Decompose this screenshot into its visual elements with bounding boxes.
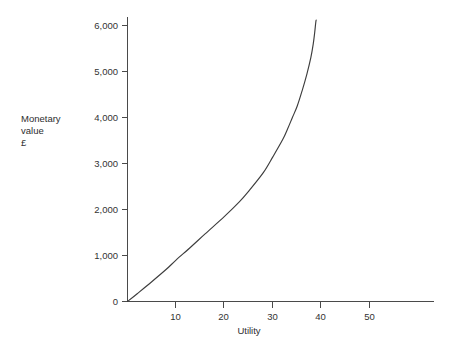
- x-axis-title: Utility: [237, 325, 260, 336]
- x-tick-label: 50: [364, 311, 375, 322]
- y-tick-label: 0: [113, 296, 118, 307]
- y-tick-label: 4,000: [94, 112, 118, 123]
- x-tick-label: 30: [267, 311, 278, 322]
- y-axis-title-line1: Monetary: [21, 113, 61, 124]
- y-tick-label: 6,000: [94, 20, 118, 31]
- y-tick-label: 2,000: [94, 204, 118, 215]
- y-tick-label: 5,000: [94, 66, 118, 77]
- x-tick-label: 20: [218, 311, 229, 322]
- chart-background: [0, 0, 452, 356]
- y-tick-label: 1,000: [94, 250, 118, 261]
- y-axis-title-line2: value: [21, 125, 44, 136]
- x-tick-label: 10: [170, 311, 181, 322]
- x-tick-label: 40: [315, 311, 326, 322]
- y-axis-title-line3: £: [21, 137, 27, 148]
- y-tick-label: 3,000: [94, 158, 118, 169]
- chart-figure: 0 1,000 2,000 3,000 4,000 5,000 6,000 10…: [0, 0, 452, 356]
